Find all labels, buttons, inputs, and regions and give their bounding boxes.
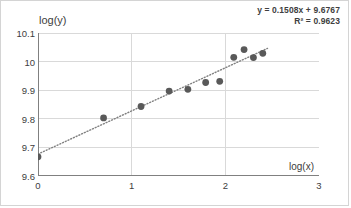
data-point (100, 115, 107, 122)
y-axis-tick-labels: 9.69.79.89.91010.1 (1, 33, 35, 176)
chart-container: y = 0.1508x + 9.6767 R² = 0.9623 log(y) … (0, 0, 349, 206)
scatter-plot-svg (38, 33, 319, 176)
x-axis-tick-label: 3 (316, 180, 321, 191)
x-axis-tick-label: 1 (129, 180, 134, 191)
trendline (38, 48, 267, 154)
x-axis-tick-label: 0 (35, 180, 40, 191)
r-squared-label: R² = 0.9623 (257, 16, 340, 27)
x-axis-tick-label: 2 (223, 180, 228, 191)
data-point (138, 103, 145, 110)
trendline-equation-label: y = 0.1508x + 9.6767 (257, 5, 340, 16)
y-axis-tick-label: 10.1 (3, 28, 35, 39)
data-point (259, 50, 266, 57)
y-axis-tick-label: 9.6 (3, 171, 35, 182)
data-point (250, 54, 257, 61)
data-point (230, 54, 237, 61)
data-point (202, 79, 209, 86)
x-axis-tick-labels: 0123 (38, 180, 319, 194)
y-axis-tick-label: 10 (3, 56, 35, 67)
data-point (38, 153, 41, 160)
data-point (216, 78, 223, 85)
trendline-annotation: y = 0.1508x + 9.6767 R² = 0.9623 (257, 5, 340, 27)
data-point (166, 88, 173, 95)
data-point (184, 86, 191, 93)
y-axis-tick-label: 9.7 (3, 142, 35, 153)
y-axis-title: log(y) (39, 14, 67, 26)
y-axis-tick-label: 9.8 (3, 113, 35, 124)
plot-area (38, 33, 319, 176)
data-point (241, 46, 248, 53)
y-axis-tick-label: 9.9 (3, 85, 35, 96)
